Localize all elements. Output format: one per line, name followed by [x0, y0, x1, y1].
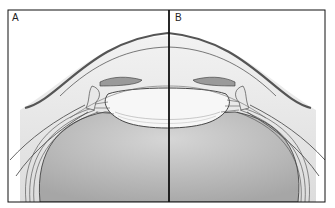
- eye-diagram: [0, 0, 335, 208]
- panel-label-a: A: [12, 12, 19, 23]
- panel-label-b: B: [175, 12, 182, 23]
